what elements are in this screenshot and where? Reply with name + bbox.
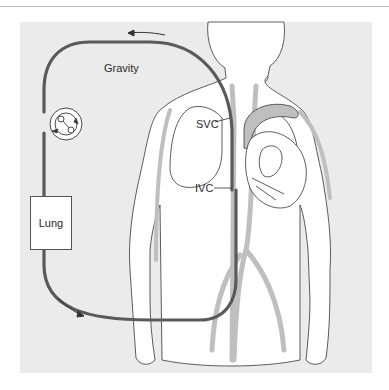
lung-oxygenator-box: Lung — [30, 196, 72, 250]
svc-label: SVC — [196, 118, 219, 130]
gravity-label: Gravity — [104, 62, 139, 74]
ivc-label: IVC — [195, 182, 213, 194]
roller-pump — [50, 108, 82, 140]
lung-label: Lung — [39, 217, 63, 229]
circulation-diagram — [0, 0, 389, 390]
